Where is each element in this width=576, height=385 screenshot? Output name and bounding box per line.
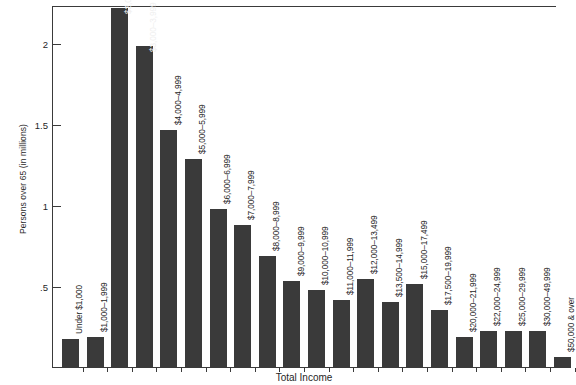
bar-category-label: $50,000 & over [566, 297, 576, 352]
y-tick-label: 1 [43, 201, 48, 212]
bar [259, 256, 276, 368]
bar [111, 8, 128, 368]
x-tick [575, 368, 576, 372]
bar [357, 279, 374, 368]
bar [308, 290, 325, 368]
bar [234, 225, 251, 368]
bar-category-label: $8,000–8,999 [271, 202, 281, 252]
bar-category-label: Under $1,000 [74, 285, 84, 334]
bar-category-label: $25,000–29,999 [517, 267, 527, 326]
bar [210, 209, 227, 368]
bar [406, 284, 423, 368]
bar-category-label: $22,000–24,999 [492, 267, 502, 326]
bar [480, 331, 497, 368]
y-axis-title: Persons over 65 (in millions) [18, 84, 28, 274]
bar-category-label: $20,000–21,999 [468, 274, 478, 333]
y-tick: 1.5 [52, 125, 61, 126]
bar [505, 331, 522, 368]
bar [431, 310, 448, 368]
y-tick: 2 [52, 44, 61, 45]
bar-category-label: $5,000–5,999 [197, 104, 207, 154]
bar-category-label: $9,000–9,999 [296, 226, 306, 276]
bar-category-label: $3,000–3,999 [148, 2, 158, 52]
y-tick-label: 2 [43, 39, 48, 50]
bar-category-label: $30,000–49,999 [542, 267, 552, 326]
bar-category-label: $4,000–4,999 [173, 75, 183, 125]
bar-category-label: $10,000–10,999 [320, 227, 330, 286]
bar-category-label: $1,000–1,999 [99, 283, 109, 333]
x-axis-title: Total Income [52, 372, 556, 383]
bar [529, 331, 546, 368]
y-tick: 1 [52, 206, 61, 207]
bar-category-label: $13,500–14,999 [394, 238, 404, 297]
bar [382, 302, 399, 368]
bar [554, 357, 571, 368]
bar-category-label: $6,000–6,999 [222, 155, 232, 205]
bar-category-label: $17,500–19,999 [443, 246, 453, 305]
bar [283, 281, 300, 368]
bar [185, 159, 202, 368]
bar-category-label: $11,000–11,999 [345, 238, 355, 295]
bar [136, 46, 153, 368]
bar-category-label: $7,000–7,999 [246, 171, 256, 221]
bar-category-label: $2,000–2,999 [123, 0, 133, 14]
y-tick: .5 [52, 287, 61, 288]
bar-category-label: $12,000–13,499 [369, 215, 379, 274]
y-tick-label: .5 [40, 282, 48, 293]
bar [62, 339, 79, 368]
bar [160, 130, 177, 368]
bar-category-label: $15,000–17,499 [419, 220, 429, 279]
bar [87, 337, 104, 368]
bar [456, 337, 473, 368]
y-tick-label: 1.5 [35, 120, 48, 131]
bar [333, 300, 350, 368]
